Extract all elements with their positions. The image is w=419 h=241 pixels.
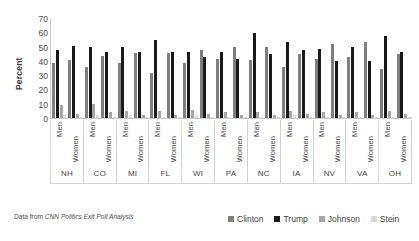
x-group-oh: MenWomen — [379, 120, 412, 164]
x-group-nv: MenWomen — [314, 120, 347, 164]
bar-johnson — [256, 112, 259, 118]
bar-cluster — [100, 19, 116, 118]
bar-stein — [408, 117, 411, 118]
bar-cluster — [182, 19, 198, 118]
x-tick-label: Women — [267, 136, 276, 162]
x-tick-label: Women — [103, 136, 112, 162]
x-tick-wi-men: Men — [182, 120, 198, 164]
bar-clinton — [118, 63, 121, 118]
y-axis-tick-label: 50 — [39, 44, 48, 52]
x-tick-ia-women: Women — [297, 120, 313, 164]
x-tick-mi-women: Women — [133, 120, 149, 164]
state-group-va — [346, 19, 379, 118]
state-label-nh: NH — [50, 164, 84, 184]
bar-trump — [171, 52, 174, 118]
bar-cluster — [248, 19, 264, 118]
x-tick-nc-men: Men — [248, 120, 264, 164]
x-axis-gender-labels: MenWomenMenWomenMenWomenMenWomenMenWomen… — [50, 120, 412, 164]
bar-trump — [121, 47, 124, 118]
bar-cluster — [297, 19, 313, 118]
bar-johnson — [240, 115, 243, 118]
x-tick-va-women: Women — [362, 120, 378, 164]
x-tick-pa-women: Women — [231, 120, 247, 164]
bar-johnson — [109, 112, 112, 118]
bar-clinton — [233, 47, 236, 118]
bar-cluster — [67, 19, 83, 118]
bar-clinton — [167, 53, 170, 118]
legend-item-clinton: Clinton — [228, 214, 263, 224]
bar-cluster — [149, 19, 165, 118]
bar-trump — [236, 59, 239, 118]
bar-trump — [105, 52, 108, 118]
caption-source: CNN Politics Exit Poll Analysis — [45, 213, 134, 220]
bar-cluster — [346, 19, 362, 118]
x-group-ia: MenWomen — [281, 120, 314, 164]
x-tick-mi-men: Men — [117, 120, 133, 164]
bar-stein — [113, 117, 116, 118]
state-label-wi: WI — [182, 164, 215, 184]
bar-stein — [162, 117, 165, 118]
bar-johnson — [158, 111, 161, 118]
bar-cluster — [379, 19, 395, 118]
x-tick-label: Men — [120, 122, 129, 137]
x-group-fl: MenWomen — [149, 120, 182, 164]
x-tick-label: Men — [383, 122, 392, 137]
bar-stein — [359, 117, 362, 118]
bar-johnson — [142, 115, 145, 118]
x-tick-nv-women: Women — [329, 120, 345, 164]
x-tick-label: Men — [219, 122, 228, 137]
exit-poll-bar-chart: Percent 706050403020100 MenWomenMenWomen… — [0, 0, 419, 241]
bar-trump — [56, 50, 59, 118]
bar-clinton — [282, 67, 285, 118]
y-axis-tick-label: 60 — [39, 29, 48, 37]
bar-trump — [351, 47, 354, 118]
x-tick-label: Women — [366, 136, 375, 162]
bar-stein — [375, 117, 378, 118]
state-label-va: VA — [346, 164, 379, 184]
bar-stein — [260, 117, 263, 118]
bar-cluster — [215, 19, 231, 118]
bar-stein — [227, 117, 230, 118]
bar-cluster — [396, 19, 412, 118]
legend-label: Clinton — [237, 214, 263, 224]
y-axis-tick-label: 0 — [43, 115, 48, 123]
bar-trump — [220, 52, 223, 118]
x-tick-oh-women: Women — [395, 120, 411, 164]
bar-stein — [178, 117, 181, 118]
bar-cluster — [264, 19, 280, 118]
square-swatch-icon — [319, 216, 325, 222]
bar-stein — [392, 117, 395, 118]
state-group-ia — [281, 19, 314, 118]
bar-clinton — [364, 42, 367, 118]
legend-item-trump: Trump — [274, 214, 307, 224]
state-group-nc — [248, 19, 281, 118]
state-group-mi — [117, 19, 150, 118]
bar-johnson — [289, 111, 292, 118]
state-label-ia: IA — [281, 164, 314, 184]
bar-trump — [302, 50, 305, 118]
bar-clinton — [298, 54, 301, 118]
state-group-wi — [182, 19, 215, 118]
x-tick-label: Women — [202, 136, 211, 162]
bar-cluster — [281, 19, 297, 118]
y-axis-tick-label: 20 — [39, 86, 48, 94]
bar-clinton — [150, 73, 153, 118]
bar-cluster — [117, 19, 133, 118]
bar-trump — [286, 42, 289, 118]
bar-stein — [293, 115, 296, 118]
bar-clinton — [315, 59, 318, 118]
bar-clinton — [52, 63, 55, 118]
state-group-co — [84, 19, 117, 118]
bar-cluster — [330, 19, 346, 118]
bar-johnson — [371, 115, 374, 118]
state-label-oh: OH — [379, 164, 412, 184]
x-tick-label: Women — [169, 136, 178, 162]
bar-johnson — [339, 115, 342, 118]
x-tick-va-men: Men — [346, 120, 362, 164]
bar-johnson — [125, 111, 128, 118]
bar-johnson — [76, 114, 79, 118]
x-tick-label: Men — [251, 122, 260, 137]
bar-stein — [129, 115, 132, 118]
bar-stein — [195, 115, 198, 118]
x-tick-nh-men: Men — [51, 120, 67, 164]
